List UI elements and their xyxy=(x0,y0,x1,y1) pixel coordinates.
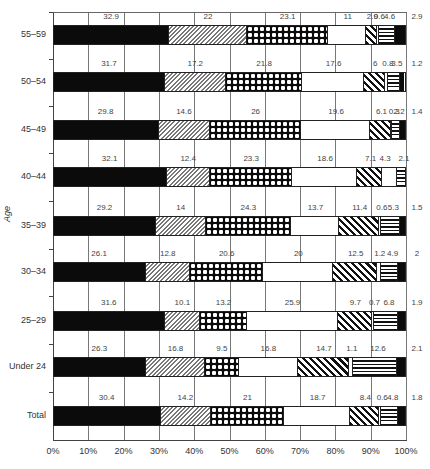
x-tick-label: 70% xyxy=(291,446,309,456)
data-label: 9.5 xyxy=(216,344,227,353)
data-label: 12.5 xyxy=(348,249,364,258)
category-label: 55–59 xyxy=(2,29,46,39)
bar-segment xyxy=(54,263,146,281)
gridline xyxy=(406,13,407,441)
bar-segment xyxy=(239,358,298,376)
data-label: 8.4 xyxy=(360,393,371,402)
bar-segment xyxy=(292,168,357,186)
bar-segment xyxy=(301,121,370,139)
data-label: 11 xyxy=(344,12,352,21)
data-label: 1.9 xyxy=(411,298,422,307)
data-label: 23.3 xyxy=(243,154,259,163)
data-label: 12.8 xyxy=(160,249,176,258)
bar-segment xyxy=(200,312,246,330)
bar-segment xyxy=(397,168,404,186)
bar-segment xyxy=(350,407,379,425)
y-tick xyxy=(49,201,53,202)
data-label: 13.2 xyxy=(216,298,232,307)
x-tick-label: 30% xyxy=(150,446,168,456)
bar-segment xyxy=(400,217,405,235)
stacked-bar xyxy=(53,167,406,187)
data-label: 20 xyxy=(294,249,303,258)
data-label: 1.8 xyxy=(411,393,422,402)
x-tick-label: 50% xyxy=(220,446,238,456)
bar-segment xyxy=(298,358,350,376)
bar-segment xyxy=(159,121,210,139)
data-label: 11.4 xyxy=(352,203,367,212)
data-label: 21 xyxy=(243,393,252,402)
data-label: 4.3 xyxy=(379,154,390,163)
stacked-bar xyxy=(53,311,406,331)
stacked-bar xyxy=(53,120,406,140)
category-label: 50–54 xyxy=(2,76,46,86)
data-label: 12.6 xyxy=(370,344,386,353)
data-label: 18.7 xyxy=(310,393,326,402)
x-tick-label: 40% xyxy=(185,446,203,456)
bar-segment xyxy=(211,407,285,425)
data-label: 32.9 xyxy=(103,12,119,21)
data-label: 2.1 xyxy=(411,344,422,353)
data-label: 7.1 xyxy=(365,154,376,163)
x-tick-label: 80% xyxy=(326,446,344,456)
bar-segment xyxy=(226,73,303,91)
data-label: 0.7 xyxy=(369,298,380,307)
bar-segment xyxy=(398,407,404,425)
bar-segment xyxy=(364,73,385,91)
data-label: 12.4 xyxy=(180,154,196,163)
data-label: 20.6 xyxy=(219,249,235,258)
y-tick xyxy=(49,249,53,250)
data-label: 21.8 xyxy=(256,59,272,68)
data-label: 1.5 xyxy=(411,203,422,212)
data-label: 26.3 xyxy=(92,344,108,353)
category-label: Under 24 xyxy=(2,361,46,371)
data-label: 4.9 xyxy=(387,249,398,258)
bar-segment xyxy=(357,168,382,186)
bar-segment xyxy=(169,26,246,44)
bar-segment xyxy=(400,73,404,91)
bar-segment xyxy=(206,217,291,235)
data-label: 2.2 xyxy=(394,107,405,116)
data-label: 19.6 xyxy=(328,107,344,116)
bar-segment xyxy=(161,407,211,425)
data-label: 23.1 xyxy=(280,12,296,21)
data-label: 14.6 xyxy=(176,107,192,116)
data-label: 30.4 xyxy=(99,393,115,402)
y-tick xyxy=(49,296,53,297)
bar-segment xyxy=(379,26,395,44)
data-label: 14.7 xyxy=(316,344,332,353)
data-label: 14 xyxy=(176,203,185,212)
bar-segment xyxy=(381,407,398,425)
stacked-bar xyxy=(53,262,406,282)
bar-segment xyxy=(54,358,146,376)
stacked-bar xyxy=(53,216,406,236)
bar-segment xyxy=(165,73,225,91)
data-label: 1.4 xyxy=(411,107,422,116)
x-tick-label: 90% xyxy=(362,446,380,456)
bar-segment xyxy=(302,73,364,91)
bar-segment xyxy=(284,407,350,425)
data-label: 17.6 xyxy=(326,59,342,68)
data-label: 17.2 xyxy=(187,59,203,68)
data-label: 14.2 xyxy=(178,393,194,402)
bar-segment xyxy=(366,26,376,44)
data-label: 29.2 xyxy=(97,203,113,212)
data-label: 31.6 xyxy=(101,298,117,307)
category-label: 35–39 xyxy=(2,220,46,230)
bar-segment xyxy=(398,263,405,281)
x-tick-label: 20% xyxy=(115,446,133,456)
category-label: 30–34 xyxy=(2,266,46,276)
data-label: 26.1 xyxy=(91,249,107,258)
data-label: 31.7 xyxy=(101,59,117,68)
category-label: Total xyxy=(2,410,46,420)
bar-segment xyxy=(328,26,367,44)
y-tick xyxy=(49,59,53,60)
data-label: 3.5 xyxy=(391,59,402,68)
category-label: 40–44 xyxy=(2,171,46,181)
x-tick-label: 60% xyxy=(256,446,274,456)
data-label: 22 xyxy=(204,12,213,21)
bar-segment xyxy=(54,73,165,91)
bar-segment xyxy=(381,217,400,235)
y-tick xyxy=(49,106,53,107)
data-label: 2.1 xyxy=(398,154,409,163)
data-label: 0.6 xyxy=(377,393,388,402)
